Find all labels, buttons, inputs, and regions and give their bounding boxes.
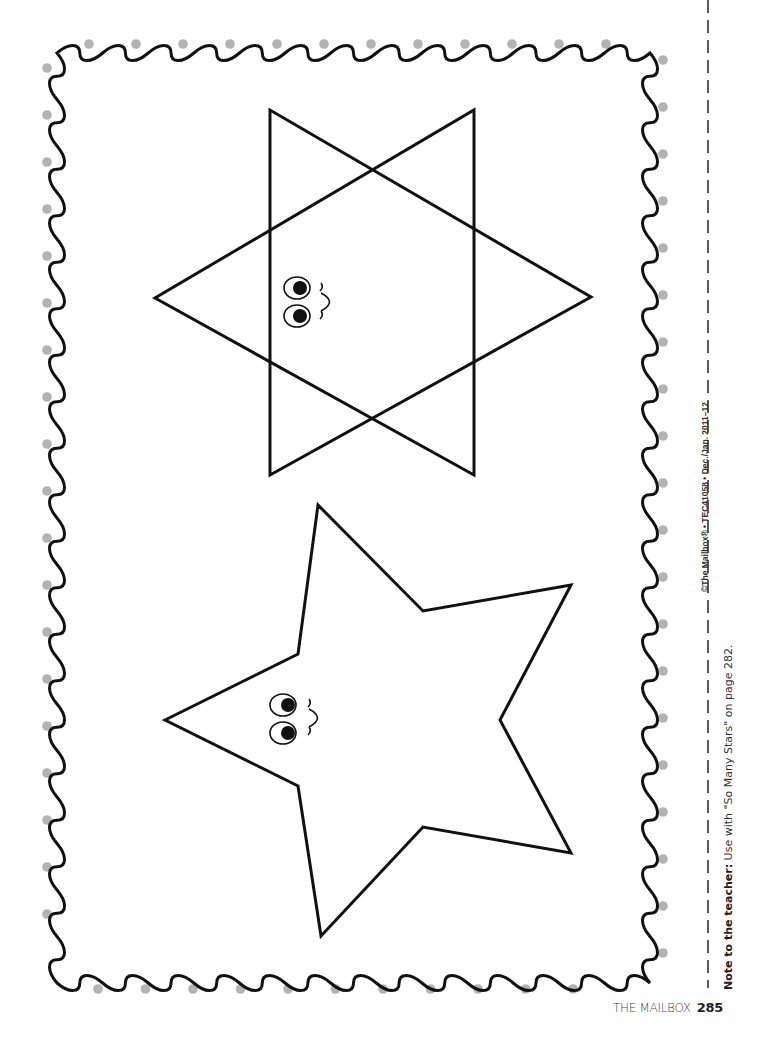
page-footer: THE MAILBOX285 xyxy=(613,1000,723,1015)
page-number: 285 xyxy=(697,1000,723,1015)
smile-icon xyxy=(320,283,330,319)
border-dots xyxy=(42,39,668,994)
five-pointed-star xyxy=(165,505,571,936)
six-pointed-star xyxy=(155,110,591,475)
publication-name: THE MAILBOX xyxy=(613,1001,691,1015)
worksheet-artwork xyxy=(0,0,769,1045)
teacher-note: Note to the teacher: Use with "So Many S… xyxy=(722,645,735,991)
teacher-note-label: Note to the teacher: xyxy=(722,864,735,990)
five-star-face xyxy=(270,694,318,744)
wavy-border xyxy=(50,46,658,991)
smile-icon xyxy=(308,699,318,735)
copyright-credit: ©The Mailbox® • TEC41058 • Dec./Jan. 201… xyxy=(700,402,710,592)
teacher-note-text: Use with "So Many Stars" on page 282. xyxy=(722,645,735,864)
six-star-face xyxy=(284,277,330,327)
